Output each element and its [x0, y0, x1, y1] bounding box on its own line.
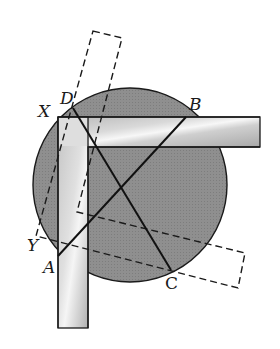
label-A: A: [41, 257, 55, 277]
label-X: X: [36, 101, 51, 121]
circle-square-diagram: D X B Y A C: [0, 0, 280, 349]
label-Y: Y: [27, 235, 40, 255]
label-C: C: [165, 273, 178, 293]
label-D: D: [59, 88, 74, 108]
square-vertical-arm: [58, 117, 88, 328]
label-B: B: [188, 94, 202, 114]
